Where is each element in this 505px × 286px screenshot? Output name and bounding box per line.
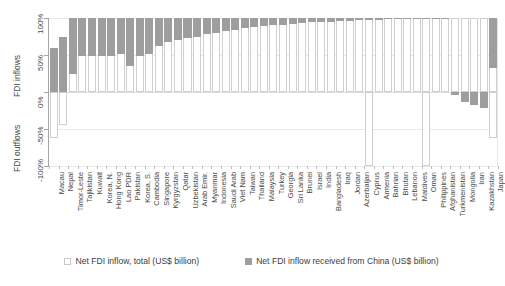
bar-slot[interactable] xyxy=(135,18,145,166)
bar-slot[interactable] xyxy=(59,18,69,166)
bar-total-positive[interactable] xyxy=(394,18,402,92)
bar-china-positive[interactable] xyxy=(212,18,220,33)
bar-slot[interactable] xyxy=(288,18,298,166)
bar-slot[interactable] xyxy=(336,18,346,166)
bar-total-positive[interactable] xyxy=(403,18,411,92)
bar-total-positive[interactable] xyxy=(470,18,478,92)
bar-slot[interactable] xyxy=(393,18,403,166)
bar-total-positive[interactable] xyxy=(308,18,316,92)
bar-china-positive[interactable] xyxy=(164,18,172,42)
bar-china-positive[interactable] xyxy=(88,18,96,56)
bar-slot[interactable] xyxy=(479,18,489,166)
bar-china-positive[interactable] xyxy=(336,18,344,21)
bar-china-positive[interactable] xyxy=(355,18,363,20)
bar-china-positive[interactable] xyxy=(107,18,115,56)
bar-china-positive[interactable] xyxy=(174,18,182,40)
bar-china-positive[interactable] xyxy=(50,48,58,92)
bar-china-positive[interactable] xyxy=(260,18,268,26)
bar-china-positive[interactable] xyxy=(59,37,67,93)
bar-slot[interactable] xyxy=(106,18,116,166)
bar-slot[interactable] xyxy=(221,18,231,166)
bar-total-positive[interactable] xyxy=(422,18,430,92)
bar-slot[interactable] xyxy=(364,18,374,166)
bar-china-positive[interactable] xyxy=(78,18,86,56)
bar-china-positive[interactable] xyxy=(308,18,316,22)
bar-total-positive[interactable] xyxy=(441,18,449,92)
bar-china-positive[interactable] xyxy=(279,18,287,25)
bar-china-negative[interactable] xyxy=(470,92,478,105)
bar-slot[interactable] xyxy=(116,18,126,166)
bar-china-negative[interactable] xyxy=(461,92,469,102)
bar-total-negative[interactable] xyxy=(422,92,430,166)
bar-total-positive[interactable] xyxy=(413,18,421,92)
bar-slot[interactable] xyxy=(269,18,279,166)
bar-china-positive[interactable] xyxy=(269,18,277,25)
bar-slot[interactable] xyxy=(87,18,97,166)
bar-china-positive[interactable] xyxy=(365,18,373,20)
bar-china-positive[interactable] xyxy=(403,18,411,19)
bar-china-positive[interactable] xyxy=(489,18,497,68)
bar-total-positive[interactable] xyxy=(241,18,249,92)
bar-china-positive[interactable] xyxy=(69,18,77,74)
bar-slot[interactable] xyxy=(488,18,498,166)
bar-slot[interactable] xyxy=(192,18,202,166)
bar-china-positive[interactable] xyxy=(250,18,258,27)
bar-total-negative[interactable] xyxy=(365,92,373,166)
bar-china-positive[interactable] xyxy=(183,18,191,38)
bar-total-negative[interactable] xyxy=(59,92,67,125)
bar-china-positive[interactable] xyxy=(422,18,430,19)
bar-total-positive[interactable] xyxy=(461,18,469,92)
bar-china-negative[interactable] xyxy=(480,92,488,108)
bar-china-positive[interactable] xyxy=(145,18,153,54)
bar-total-positive[interactable] xyxy=(365,18,373,92)
bar-china-positive[interactable] xyxy=(346,18,354,21)
bar-slot[interactable] xyxy=(49,18,59,166)
bar-slot[interactable] xyxy=(173,18,183,166)
bar-slot[interactable] xyxy=(422,18,432,166)
bar-total-positive[interactable] xyxy=(317,18,325,92)
bar-slot[interactable] xyxy=(383,18,393,166)
bar-china-positive[interactable] xyxy=(231,18,239,30)
bar-china-positive[interactable] xyxy=(298,18,306,23)
bar-china-positive[interactable] xyxy=(384,18,392,19)
bar-total-positive[interactable] xyxy=(269,18,277,92)
bar-slot[interactable] xyxy=(125,18,135,166)
bar-slot[interactable] xyxy=(355,18,365,166)
bar-slot[interactable] xyxy=(345,18,355,166)
bar-slot[interactable] xyxy=(164,18,174,166)
bar-slot[interactable] xyxy=(259,18,269,166)
bar-total-positive[interactable] xyxy=(298,18,306,92)
bar-total-positive[interactable] xyxy=(289,18,297,92)
bar-slot[interactable] xyxy=(374,18,384,166)
bar-total-positive[interactable] xyxy=(432,18,440,92)
bar-slot[interactable] xyxy=(441,18,451,166)
bar-slot[interactable] xyxy=(402,18,412,166)
bar-total-positive[interactable] xyxy=(384,18,392,92)
bar-china-positive[interactable] xyxy=(222,18,230,31)
bar-china-positive[interactable] xyxy=(203,18,211,34)
bar-slot[interactable] xyxy=(460,18,470,166)
bar-china-negative[interactable] xyxy=(451,92,459,95)
bar-china-positive[interactable] xyxy=(432,18,440,19)
bar-china-positive[interactable] xyxy=(155,18,163,46)
bar-total-positive[interactable] xyxy=(480,18,488,92)
bar-total-positive[interactable] xyxy=(346,18,354,92)
bar-china-positive[interactable] xyxy=(441,18,449,19)
bar-slot[interactable] xyxy=(412,18,422,166)
bar-slot[interactable] xyxy=(250,18,260,166)
bar-total-positive[interactable] xyxy=(336,18,344,92)
bar-china-positive[interactable] xyxy=(136,18,144,56)
bar-slot[interactable] xyxy=(231,18,241,166)
bar-slot[interactable] xyxy=(97,18,107,166)
bar-slot[interactable] xyxy=(211,18,221,166)
bar-slot[interactable] xyxy=(68,18,78,166)
bar-slot[interactable] xyxy=(240,18,250,166)
bar-total-positive[interactable] xyxy=(260,18,268,92)
bar-china-positive[interactable] xyxy=(375,18,383,20)
bar-slot[interactable] xyxy=(154,18,164,166)
bar-slot[interactable] xyxy=(78,18,88,166)
bar-total-positive[interactable] xyxy=(355,18,363,92)
bar-china-positive[interactable] xyxy=(317,18,325,22)
bar-total-positive[interactable] xyxy=(451,18,459,92)
bar-total-positive[interactable] xyxy=(279,18,287,92)
